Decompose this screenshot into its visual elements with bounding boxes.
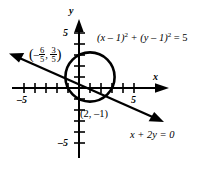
fraction-numerator: 6: [39, 46, 45, 55]
y-axis-label: y: [69, 6, 73, 16]
circle-curve: [65, 52, 114, 101]
y-tick-label-5: 5: [63, 28, 68, 38]
x-axis-arrowhead: [155, 83, 169, 93]
circle-line-graph-figure: y x 5 –5 –5 5 (x – 1)2 + (y – 1)2 = 5 x …: [0, 0, 207, 171]
point-label-lower-right: (2, –1): [80, 109, 108, 120]
fraction-denominator: 5: [50, 54, 56, 64]
x-tick-label-5: 5: [131, 95, 136, 105]
fraction-three-fifths: 35: [50, 46, 56, 64]
y-axis-arrowhead: [74, 19, 83, 32]
fraction-six-fifths: 65: [39, 46, 45, 64]
point-label-upper-left: (–65, 35): [29, 46, 61, 64]
point-close-paren: ): [57, 47, 62, 62]
fraction-denominator: 5: [39, 54, 45, 64]
circle-equation-part2: + (y – 1): [128, 32, 168, 43]
x-tick-label-negative-5: –5: [17, 95, 27, 105]
fraction-numerator: 3: [50, 46, 56, 55]
line-equation-label: x + 2y = 0: [130, 130, 175, 141]
x-axis-label: x: [153, 72, 158, 82]
graph-canvas: [0, 0, 207, 171]
circle-equation-part3: = 5: [171, 32, 187, 43]
line-arrowhead-left: [9, 53, 24, 63]
circle-equation-part1: (x – 1): [97, 32, 124, 43]
circle-equation-label: (x – 1)2 + (y – 1)2 = 5: [97, 33, 188, 44]
y-tick-label-negative-5: –5: [58, 138, 68, 148]
